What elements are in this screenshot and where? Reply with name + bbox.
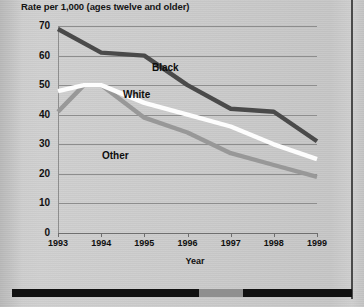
x-tick-1996 [188,233,189,237]
series-label-other: Other [102,150,129,161]
series-label-black: Black [152,62,179,73]
x-tick-label-1995: 1995 [121,238,167,248]
x-tick-label-1996: 1996 [165,238,211,248]
bottom-bar-segment-0 [12,289,199,297]
x-tick-label-1994: 1994 [78,238,124,248]
chart-page: Rate per 1,000 (ages twelve and older) 0… [0,0,364,307]
x-tick-label-1997: 1997 [208,238,254,248]
decorative-bottom-bar [12,289,352,297]
x-tick-1999 [317,233,318,237]
bottom-bar-segment-2 [243,289,352,297]
x-tick-label-1999: 1999 [294,238,340,248]
x-axis-title-text: Year [185,256,204,266]
x-tick-1998 [274,233,275,237]
x-tick-label-1993: 1993 [35,238,81,248]
x-tick-1997 [231,233,232,237]
x-tick-1994 [101,233,102,237]
x-axis-title: Year [0,256,364,266]
x-tick-label-1998: 1998 [251,238,297,248]
x-tick-1995 [144,233,145,237]
series-line-white [58,85,317,159]
x-tick-1993 [58,233,59,237]
series-line-other [58,85,317,177]
bottom-bar-segment-1 [199,289,243,297]
series-label-white: White [123,89,150,100]
